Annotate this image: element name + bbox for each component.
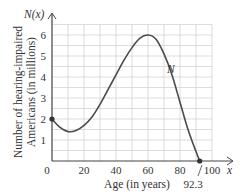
data-point-dot [197,158,202,163]
y-tick-label: 3 [41,92,47,104]
x-tick-labels: 020406080100 [44,164,221,176]
y-tick-label: 1 [41,134,47,146]
svg-text:Americans (in millions): Americans (in millions) [25,37,38,147]
svg-text:Number of hearing-impaired: Number of hearing-impaired [12,26,25,158]
grid [52,25,212,162]
chart: 123456 020406080100 N(x) x N 92.3 Age (i… [0,0,240,195]
x-axis-name: x [226,164,233,176]
y-tick-label: 6 [41,29,47,41]
data-point-dot [49,116,54,121]
x-tick-label: 100 [204,164,221,176]
y-axis-name: N(x) [23,8,45,21]
y-tick-label: 2 [41,113,47,125]
x-tick-label: 0 [44,164,50,176]
root-leader-line [198,165,202,176]
x-tick-label: 20 [79,164,91,176]
y-tick-label: 4 [41,71,47,83]
y-tick-labels: 123456 [41,29,47,146]
y-axis-label: Number of hearing-impaired Americans (in… [12,26,38,158]
curve-label: N [166,63,176,75]
axes [48,13,233,165]
x-tick-label: 40 [111,164,123,176]
x-tick-label: 80 [175,164,187,176]
x-tick-label: 60 [143,164,155,176]
root-annotation: 92.3 [183,178,203,190]
x-axis-label: Age (in years) [104,178,170,191]
y-tick-label: 5 [41,50,47,62]
